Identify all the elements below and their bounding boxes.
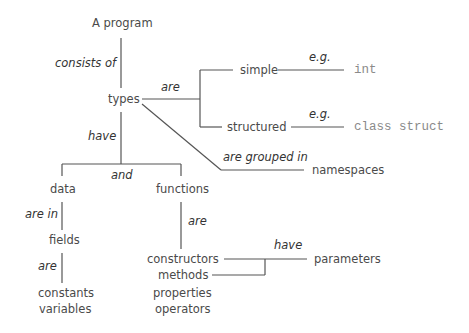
node-namespaces: namespaces <box>312 163 384 177</box>
rel-are-grouped-in: are grouped in <box>223 150 308 164</box>
node-structured: structured <box>227 120 287 134</box>
rel-eg-structured: e.g. <box>309 107 331 121</box>
rel-are-functions: are <box>188 214 207 228</box>
rel-consists-of: consists of <box>55 56 116 70</box>
node-constructors: constructors <box>147 252 219 266</box>
node-operators: operators <box>155 302 210 316</box>
rel-have-params: have <box>274 238 302 252</box>
node-int: int <box>354 63 377 77</box>
node-a-program: A program <box>92 16 153 30</box>
node-data: data <box>50 182 76 196</box>
node-methods: methods <box>158 268 208 282</box>
concept-diagram: A program types simple structured int cl… <box>0 0 469 333</box>
rel-are-in: are in <box>25 207 58 221</box>
rel-are-fields: are <box>38 259 57 273</box>
node-properties: properties <box>153 286 212 300</box>
node-simple: simple <box>240 63 278 77</box>
node-variables: variables <box>39 302 91 316</box>
rel-have: have <box>88 129 116 143</box>
rel-and: and <box>111 168 133 182</box>
node-constants: constants <box>38 286 94 300</box>
node-fields: fields <box>49 233 80 247</box>
node-types: types <box>108 92 140 106</box>
node-parameters: parameters <box>314 252 381 266</box>
node-functions: functions <box>156 182 209 196</box>
connector-lines <box>0 0 469 333</box>
rel-are-types: are <box>161 80 180 94</box>
rel-eg-simple: e.g. <box>309 50 331 64</box>
node-class-struct: class struct <box>354 120 444 134</box>
